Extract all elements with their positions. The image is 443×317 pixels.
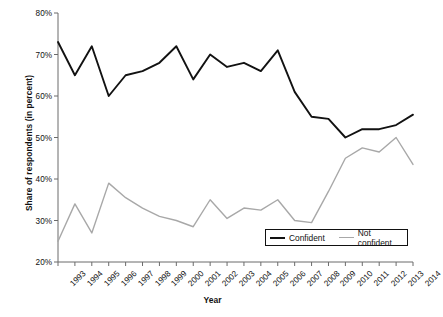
chart-legend: Confident Not confident: [265, 229, 408, 246]
x-axis-title: Year: [0, 295, 425, 305]
axis-lines: [58, 13, 413, 262]
legend-item-not-confident: Not confident: [335, 228, 407, 248]
y-axis-ticks: [54, 13, 58, 262]
series-line-confident: [58, 42, 413, 137]
series-line-not-confident: [58, 138, 413, 242]
x-tick-label: 2014: [423, 269, 442, 288]
legend-label-not-confident: Not confident: [358, 228, 407, 248]
legend-item-confident: Confident: [266, 233, 325, 243]
legend-swatch-not-confident-icon: [339, 237, 354, 238]
legend-label-confident: Confident: [289, 233, 325, 243]
legend-swatch-confident-icon: [270, 237, 285, 239]
x-axis-ticks: [58, 262, 413, 266]
series-lines: [58, 42, 413, 241]
